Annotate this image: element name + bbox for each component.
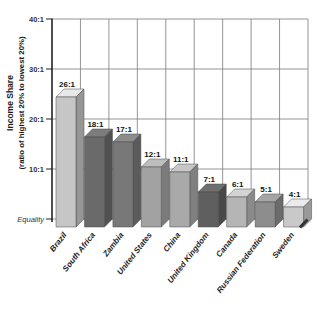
bar-south-africa xyxy=(84,137,104,227)
y-axis-title: Income Share(ratio of highest 20% to low… xyxy=(5,36,26,169)
x-category-label-canada: Canada xyxy=(214,230,239,259)
bar-value-label-russian-federation: 5:1 xyxy=(260,185,272,194)
income-share-3d-bar-chart: 26:1Brazil18:1South Africa17:1Zambia12:1… xyxy=(0,0,319,310)
bar-value-label-united-kingdom: 7:1 xyxy=(203,175,215,184)
bar-united-states xyxy=(141,167,161,227)
y-tick-label-equality: Equality xyxy=(17,215,45,224)
bar-value-label-brazil: 26:1 xyxy=(59,80,76,89)
x-category-label-sweden: Sweden xyxy=(270,231,296,260)
bar-china xyxy=(170,172,190,227)
bar-value-label-zambia: 17:1 xyxy=(116,125,133,134)
x-category-label-china: China xyxy=(162,230,183,253)
bar-zambia-side-face xyxy=(133,134,141,227)
bar-china-side-face xyxy=(190,164,198,227)
bar-sweden xyxy=(284,207,304,227)
x-category-label-russian-federation: Russian Federation xyxy=(215,231,268,295)
bar-value-label-sweden: 4:1 xyxy=(289,190,301,199)
y-tick-label-20-1: 20:1 xyxy=(29,115,44,124)
bar-united-states-side-face xyxy=(161,159,169,227)
y-axis-title-line-1: Income Share xyxy=(5,75,15,131)
bar-united-kingdom-side-face xyxy=(218,184,226,227)
bar-united-kingdom xyxy=(198,192,218,227)
bar-value-label-china: 11:1 xyxy=(173,155,189,164)
bar-brazil xyxy=(56,97,76,227)
bar-canada xyxy=(227,197,247,227)
bar-zambia xyxy=(113,142,133,227)
bar-value-label-canada: 6:1 xyxy=(232,180,244,189)
y-tick-label-10-1: 10:1 xyxy=(29,165,44,174)
bar-russian-federation xyxy=(255,202,275,227)
income-ratio-figure: 26:1Brazil18:1South Africa17:1Zambia12:1… xyxy=(0,0,319,310)
bar-value-label-south-africa: 18:1 xyxy=(87,120,104,129)
x-category-label-zambia: Zambia xyxy=(101,230,126,259)
x-category-label-brazil: Brazil xyxy=(48,230,69,253)
bar-value-label-united-states: 12:1 xyxy=(144,150,161,159)
bar-south-africa-side-face xyxy=(104,129,112,227)
y-tick-label-30-1: 30:1 xyxy=(29,65,44,74)
bar-brazil-side-face xyxy=(76,89,84,227)
y-axis-title-line-2: (ratio of highest 20% to lowest 20%) xyxy=(17,36,26,169)
y-tick-label-40-1: 40:1 xyxy=(29,15,44,24)
